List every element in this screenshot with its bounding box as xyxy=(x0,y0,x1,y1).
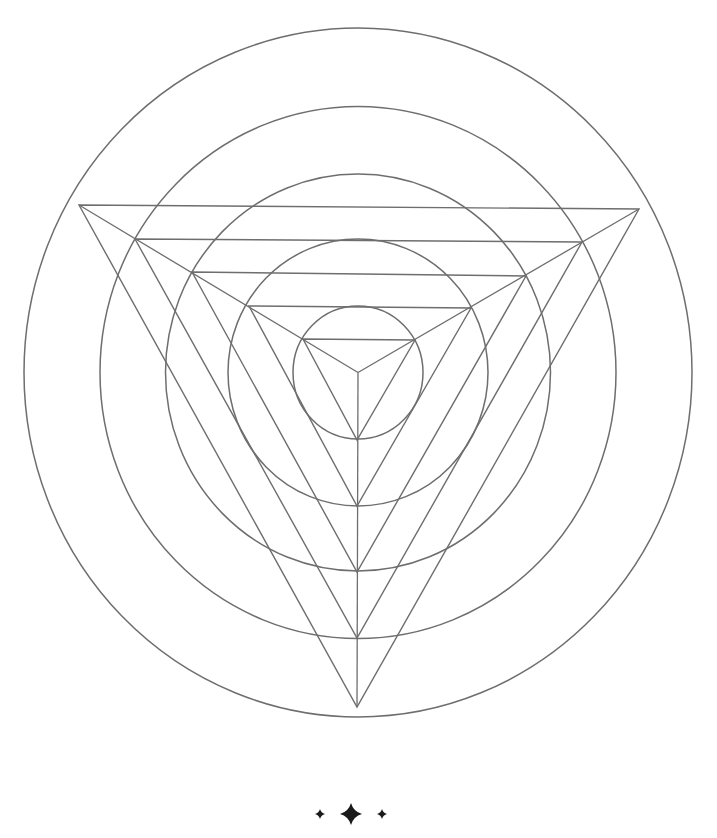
spoke-2 xyxy=(358,209,639,373)
spoke-1 xyxy=(79,205,358,373)
triangle-4 xyxy=(249,306,471,506)
triangle-1 xyxy=(79,205,639,707)
four-point-star-icon xyxy=(377,809,387,819)
nested-triangles xyxy=(79,205,639,707)
four-point-star-icon xyxy=(340,803,362,825)
geometric-drawing xyxy=(0,0,717,838)
center-spokes xyxy=(79,205,639,707)
spoke-3 xyxy=(357,373,358,708)
four-point-star-icon xyxy=(315,809,325,819)
divider-ornament xyxy=(200,803,515,825)
